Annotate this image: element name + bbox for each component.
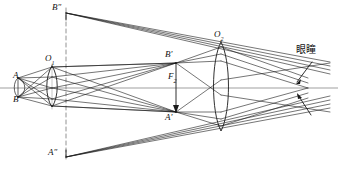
objective-letter: O (45, 53, 52, 63)
focal-letter: F (168, 71, 174, 81)
label-object-bottom: B (13, 95, 19, 104)
label-eye-pupil: 眼瞳 (296, 45, 316, 55)
label-image-bottom-prime: A' (165, 113, 172, 122)
label-focal-point: F2 (168, 72, 177, 83)
label-image-top-prime: B' (165, 50, 172, 59)
objective-subscript: 1 (52, 60, 55, 66)
eyepiece-letter: O (214, 29, 221, 39)
label-virtual-top: B″ (52, 3, 61, 12)
label-object-top: A (13, 71, 19, 80)
eyepiece-subscript: 2 (221, 36, 224, 42)
label-objective-center: O1 (45, 54, 55, 65)
label-virtual-bottom: A″ (48, 148, 57, 157)
label-eyepiece-center: O2 (214, 30, 224, 41)
focal-subscript: 2 (174, 78, 177, 84)
